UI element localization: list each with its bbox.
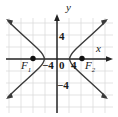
focus-label-f1: F1 [21, 60, 31, 74]
y-tick-label-4: 4 [59, 31, 65, 42]
origin-label: 0 [59, 60, 65, 71]
focus-label-f1-subscript: 1 [28, 66, 31, 73]
x-axis-label: x [96, 43, 101, 54]
y-tick-label-neg4: −4 [57, 80, 69, 91]
focus-label-f2-subscript: 2 [92, 66, 95, 73]
focus-label-f2-letter: F [85, 59, 92, 71]
focus-label-f1-letter: F [21, 59, 28, 71]
focus-label-f2: F2 [85, 60, 95, 74]
x-tick-label-4: 4 [71, 60, 77, 71]
x-tick-label-neg4: −4 [42, 60, 54, 71]
focus-point-f2 [79, 56, 84, 61]
y-axis-label: y [66, 2, 71, 13]
